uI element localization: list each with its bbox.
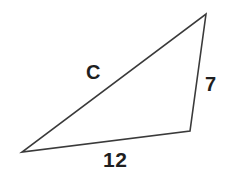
- label-hypotenuse-c: C: [86, 62, 100, 82]
- triangle-outline: [22, 14, 206, 152]
- geometry-figure: C 7 12: [0, 0, 241, 172]
- label-base-12: 12: [103, 149, 127, 170]
- label-vertical-side-7: 7: [205, 74, 216, 94]
